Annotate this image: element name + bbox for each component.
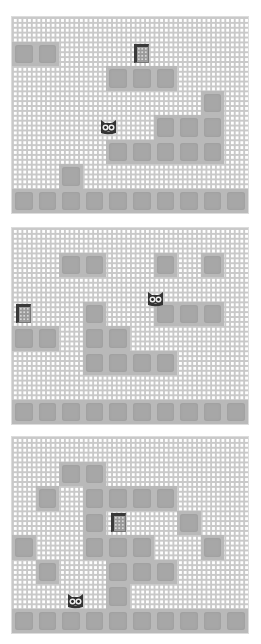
stone-block-face (39, 612, 57, 631)
stone-block (83, 400, 107, 425)
level-panel-3 (12, 437, 248, 633)
stone-block (177, 115, 201, 140)
stone-block-face (227, 403, 245, 422)
stone-block (83, 462, 107, 487)
stone-block (130, 400, 154, 425)
stone-block (36, 42, 60, 67)
stone-block-face (86, 612, 104, 631)
stone-block (130, 560, 154, 585)
stone-block (36, 189, 60, 214)
stone-block-face (109, 489, 127, 508)
stone-block-face (109, 538, 127, 557)
stone-block-face (86, 256, 104, 275)
stone-block-face (133, 403, 151, 422)
stone-block (177, 302, 201, 327)
stone-block (177, 511, 201, 536)
stone-block-face (39, 563, 57, 582)
stone-block (36, 560, 60, 585)
stone-block-face (86, 354, 104, 373)
stone-block-face (157, 563, 175, 582)
stone-block (106, 400, 130, 425)
stone-block (154, 66, 178, 91)
stone-block (83, 351, 107, 376)
stone-block-face (86, 514, 104, 533)
stone-block-face (109, 192, 127, 211)
goal-cell[interactable] (12, 302, 36, 327)
stone-block-face (157, 192, 175, 211)
door-goal-icon (16, 304, 31, 323)
stone-block-face (39, 45, 57, 64)
stone-block-face (109, 563, 127, 582)
stone-block (106, 326, 130, 351)
stone-block (224, 400, 248, 425)
stone-block (83, 609, 107, 634)
stone-block-face (204, 118, 222, 137)
stone-block-face (109, 587, 127, 606)
stone-block (59, 164, 83, 189)
stone-block (154, 609, 178, 634)
stone-block (154, 486, 178, 511)
stone-block (83, 302, 107, 327)
stone-block (83, 486, 107, 511)
goal-cell[interactable] (130, 42, 154, 67)
stone-block-face (180, 305, 198, 324)
stone-block-face (180, 118, 198, 137)
stone-block-face (15, 612, 33, 631)
stone-block-face (39, 403, 57, 422)
stone-block (130, 609, 154, 634)
stone-block-face (204, 143, 222, 162)
stone-block (201, 535, 225, 560)
stone-block-face (62, 167, 80, 186)
stone-block (177, 609, 201, 634)
stone-block-face (15, 45, 33, 64)
stone-block (130, 189, 154, 214)
cat-face-icon[interactable] (67, 593, 84, 609)
stone-block-face (133, 538, 151, 557)
stone-block (59, 609, 83, 634)
stone-block (36, 486, 60, 511)
stone-block-face (180, 143, 198, 162)
stone-block (12, 42, 36, 67)
stone-block-face (62, 612, 80, 631)
stone-block (130, 140, 154, 165)
stone-block-face (180, 612, 198, 631)
stone-block (201, 609, 225, 634)
stone-block (59, 189, 83, 214)
stone-block-face (109, 354, 127, 373)
stone-block (106, 535, 130, 560)
stone-block (106, 189, 130, 214)
stone-block (130, 351, 154, 376)
stone-block-face (227, 192, 245, 211)
stone-block-face (109, 69, 127, 88)
stone-block (12, 609, 36, 634)
stone-block (106, 486, 130, 511)
stone-block (154, 400, 178, 425)
stone-block-face (62, 403, 80, 422)
stone-block (59, 253, 83, 278)
stone-block-face (86, 465, 104, 484)
stone-block (12, 400, 36, 425)
stone-block-face (133, 143, 151, 162)
stone-block-face (86, 403, 104, 422)
cat-face-icon[interactable] (147, 291, 164, 307)
stone-block-face (157, 143, 175, 162)
stone-block-face (86, 489, 104, 508)
stone-block-face (157, 489, 175, 508)
stone-block-face (204, 192, 222, 211)
stone-block (224, 609, 248, 634)
stone-block-face (62, 465, 80, 484)
stone-block (154, 115, 178, 140)
stone-block-face (15, 538, 33, 557)
goal-cell[interactable] (106, 511, 130, 536)
stone-block-face (86, 329, 104, 348)
stone-block-face (204, 305, 222, 324)
stone-block (83, 326, 107, 351)
cat-face-icon[interactable] (100, 119, 117, 135)
stone-block (201, 115, 225, 140)
stone-block-face (133, 69, 151, 88)
stone-block-face (133, 489, 151, 508)
stone-block (224, 189, 248, 214)
stone-block (201, 140, 225, 165)
stone-block-face (86, 192, 104, 211)
stone-block-face (157, 256, 175, 275)
